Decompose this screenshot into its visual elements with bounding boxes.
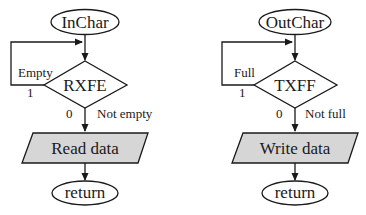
loop-condition-label: Full	[234, 65, 255, 80]
end-terminator: return	[52, 181, 118, 205]
flowchart-inchar: InChar RXFE Empty 1 0 Not empty Read dat…	[11, 10, 153, 206]
loop-value-label: 1	[27, 85, 34, 100]
start-terminator: InChar	[51, 10, 119, 35]
io-parallelogram: Read data	[22, 133, 148, 163]
decision-label: RXFE	[63, 76, 106, 95]
start-label: OutChar	[266, 13, 325, 32]
end-label: return	[65, 183, 106, 202]
start-label: InChar	[61, 13, 109, 32]
action-label: Read data	[51, 139, 119, 158]
exit-condition-label: Not empty	[97, 106, 153, 121]
flowchart-diagrams: InChar RXFE Empty 1 0 Not empty Read dat…	[0, 0, 366, 215]
decision-diamond: RXFE	[44, 61, 127, 108]
exit-value-label: 0	[66, 106, 73, 121]
decision-label: TXFF	[274, 76, 316, 95]
action-label: Write data	[260, 139, 331, 158]
loop-value-label: 1	[239, 85, 246, 100]
decision-diamond: TXFF	[254, 61, 337, 108]
io-parallelogram: Write data	[232, 133, 358, 163]
exit-value-label: 0	[276, 106, 283, 121]
end-terminator: return	[262, 181, 328, 205]
exit-condition-label: Not full	[305, 106, 346, 121]
flowchart-outchar: OutChar TXFF Full 1 0 Not full Write dat…	[222, 10, 358, 206]
start-terminator: OutChar	[259, 10, 331, 35]
loop-condition-label: Empty	[18, 65, 53, 80]
end-label: return	[275, 183, 316, 202]
flowchart-canvas: InChar RXFE Empty 1 0 Not empty Read dat…	[0, 0, 366, 215]
